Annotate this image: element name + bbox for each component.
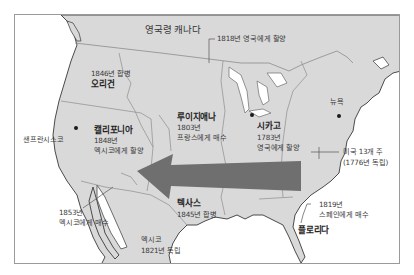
chicago-year: 1783년	[257, 133, 281, 142]
map-frame: 영국령 캐나다 1818년 영국에게 할양 1846년 합병 오리건 샌프란시스…	[14, 14, 400, 264]
san-francisco-label: 샌프란시스코	[23, 135, 64, 144]
louisiana-note: 프랑스에게 매수	[177, 133, 227, 142]
chicago-label: 시카고	[257, 121, 280, 131]
oregon-note: 1846년 합병	[91, 69, 131, 78]
florida-year: 1819년	[319, 200, 343, 209]
florida-label: 플로리다	[298, 225, 329, 235]
oregon-label: 오리건	[91, 79, 114, 89]
leader-florida	[301, 204, 311, 223]
texas-note: 1845년 합병	[177, 210, 217, 219]
mexico-note: 1821년 독립	[141, 246, 181, 255]
chicago-marker-icon	[250, 113, 254, 117]
gadsden-year: 1853년	[59, 208, 83, 217]
san-francisco-marker-icon	[74, 126, 78, 130]
gadsden-note: 멕시코에게 매수	[59, 218, 109, 227]
florida-note: 스페인에게 매수	[319, 210, 369, 219]
california-year: 1848년	[94, 136, 118, 145]
canada-label: 영국령 캐나다	[145, 25, 201, 34]
california-note: 멕시코에게 할양	[94, 146, 144, 155]
chicago-note: 영국에게 할양	[257, 143, 300, 152]
california-label: 캘리포니아	[94, 125, 133, 135]
thirteen-colonies-label: 미국 13개 주	[343, 147, 383, 156]
texas-label: 텍사스	[177, 198, 200, 208]
louisiana-year: 1803년	[177, 123, 201, 132]
louisiana-label: 루이지애나	[177, 112, 216, 122]
mexico-label: 멕시코	[141, 235, 161, 244]
cession-1818-label: 1818년 영국에게 할양	[217, 34, 286, 43]
thirteen-colonies-note: (1776년 독립)	[343, 158, 388, 167]
new-york-label: 뉴욕	[330, 97, 344, 106]
new-york-marker-icon	[337, 114, 341, 118]
